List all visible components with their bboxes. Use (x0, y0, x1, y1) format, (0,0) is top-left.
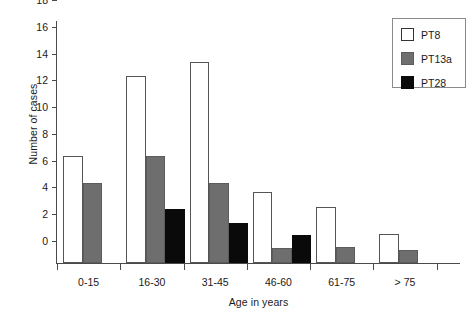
y-tick-label: 10 (18, 101, 48, 113)
x-tick-label: 31-45 (202, 276, 229, 288)
x-tick-mark (373, 264, 374, 270)
y-tick-label: 14 (18, 48, 48, 60)
x-tick-label: 16-30 (138, 276, 165, 288)
bar-pt8-3145 (190, 62, 210, 263)
x-tick-mark (57, 264, 58, 270)
y-tick-label: 18 (18, 0, 48, 6)
legend-label: PT28 (421, 77, 446, 89)
bar-pt28-4660 (292, 235, 312, 263)
bar-pt13a-75 (399, 250, 419, 263)
y-tick-label: 16 (18, 21, 48, 33)
x-tick-mark (247, 264, 248, 270)
y-tick-label: 0 (18, 235, 48, 247)
legend-item-pt13a: PT13a (401, 52, 452, 65)
legend-label: PT8 (421, 29, 440, 41)
x-tick-mark (120, 264, 121, 270)
bar-pt8-75 (379, 234, 399, 263)
y-tick-label: 12 (18, 74, 48, 86)
legend-label: PT13a (421, 53, 452, 65)
x-tick-label: > 75 (395, 276, 416, 288)
y-tick-label: 8 (18, 128, 48, 140)
x-tick-mark (184, 264, 185, 270)
y-tick-label: 6 (18, 155, 48, 167)
legend-swatch-icon (401, 52, 414, 65)
legend: PT8PT13aPT28 (392, 18, 466, 88)
legend-swatch-icon (401, 76, 414, 89)
legend-item-pt8: PT8 (401, 28, 440, 41)
y-tick-label: 2 (18, 208, 48, 220)
bar-pt8-4660 (253, 192, 273, 263)
legend-item-pt28: PT28 (401, 76, 446, 89)
x-tick-label: 46-60 (265, 276, 292, 288)
bar-pt13a-015 (83, 183, 103, 263)
y-axis-ticks: 024681012141618 (0, 0, 57, 241)
bar-pt13a-3145 (209, 183, 229, 263)
bar-pt8-6175 (316, 207, 336, 263)
bar-pt8-015 (63, 156, 83, 263)
y-tick-mark (52, 0, 57, 1)
x-tick-label: 0-15 (78, 276, 99, 288)
bar-pt13a-4660 (272, 248, 292, 263)
y-tick-label: 4 (18, 181, 48, 193)
x-tick-mark (310, 264, 311, 270)
x-axis-title: Age in years (57, 296, 460, 308)
x-tick-label: 61-75 (328, 276, 355, 288)
bar-pt28-3145 (229, 223, 249, 263)
bar-pt13a-6175 (336, 247, 356, 263)
bar-chart-figure: Number of cases 024681012141618 0-1516-3… (0, 0, 476, 319)
legend-swatch-icon (401, 28, 414, 41)
bar-pt28-1630 (165, 209, 185, 263)
bar-pt13a-1630 (146, 156, 166, 263)
bar-pt8-1630 (126, 76, 146, 263)
x-tick-mark (437, 264, 438, 270)
